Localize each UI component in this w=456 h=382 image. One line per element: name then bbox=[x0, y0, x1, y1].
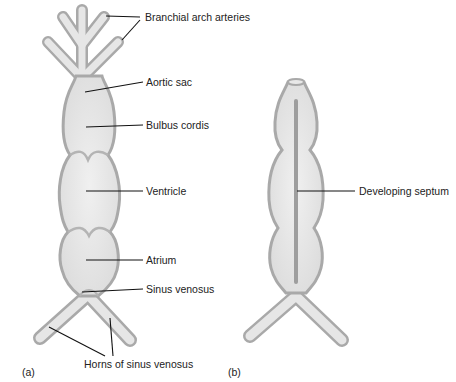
label-developing-septum: Developing septum bbox=[359, 185, 449, 197]
label-ventricle: Ventricle bbox=[146, 185, 186, 197]
label-sinus-venosus: Sinus venosus bbox=[146, 283, 214, 295]
embryonic-heart-diagram: Branchial arch arteries Aortic sac Bulbu… bbox=[0, 0, 456, 382]
partitioned-heart-b bbox=[250, 79, 342, 340]
label-branchial-arch-arteries: Branchial arch arteries bbox=[145, 11, 250, 23]
label-atrium: Atrium bbox=[146, 254, 176, 266]
panel-label-a: (a) bbox=[22, 366, 35, 378]
label-aortic-sac: Aortic sac bbox=[146, 76, 192, 88]
panel-label-b: (b) bbox=[228, 366, 241, 378]
label-bulbus-cordis: Bulbus cordis bbox=[146, 119, 209, 131]
label-horns-of-sinus-venosus: Horns of sinus venosus bbox=[84, 358, 193, 370]
